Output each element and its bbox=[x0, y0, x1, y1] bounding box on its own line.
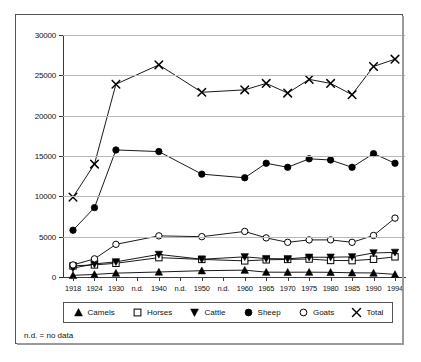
cross-x-icon bbox=[351, 307, 362, 318]
figure-root: 0500010000150002000025000300001918192419… bbox=[0, 0, 421, 362]
y-tick-mark bbox=[59, 277, 63, 278]
x-tick-label: 1965 bbox=[258, 284, 274, 293]
x-tick-mark bbox=[352, 277, 353, 281]
x-tick-mark bbox=[137, 277, 138, 281]
y-tick-mark bbox=[59, 35, 63, 36]
y-tick-label: 10000 bbox=[35, 192, 56, 201]
x-tick-mark bbox=[331, 277, 332, 281]
x-tick-label: n.d. bbox=[132, 284, 144, 293]
gridline-y-20000 bbox=[63, 116, 405, 117]
x-tick-mark bbox=[202, 277, 203, 281]
x-tick-mark bbox=[266, 277, 267, 281]
x-tick-label: 1940 bbox=[151, 284, 167, 293]
x-tick-label: 1980 bbox=[323, 284, 339, 293]
filled-triangle-down-icon bbox=[189, 307, 200, 318]
figure-frame: 0500010000150002000025000300001918192419… bbox=[15, 14, 403, 344]
plot-area: 0500010000150002000025000300001918192419… bbox=[63, 35, 405, 277]
legend-item-total[interactable]: Total bbox=[351, 307, 383, 318]
y-tick-label: 5000 bbox=[39, 232, 56, 241]
x-tick-mark bbox=[223, 277, 224, 281]
x-tick-mark bbox=[395, 277, 396, 281]
x-tick-label: 1994 bbox=[387, 284, 403, 293]
legend-label: Total bbox=[366, 308, 383, 317]
x-axis-line bbox=[63, 277, 406, 278]
x-tick-label: 1975 bbox=[301, 284, 317, 293]
y-tick-label: 15000 bbox=[35, 152, 56, 161]
legend-label: Goats bbox=[313, 308, 334, 317]
filled-circle-icon bbox=[243, 307, 254, 318]
y-tick-mark bbox=[59, 196, 63, 197]
x-tick-mark bbox=[73, 277, 74, 281]
x-tick-mark bbox=[288, 277, 289, 281]
legend-item-goats[interactable]: Goats bbox=[298, 307, 334, 318]
y-tick-label: 0 bbox=[52, 273, 56, 282]
series-total bbox=[69, 55, 399, 201]
legend-item-cattle[interactable]: Cattle bbox=[189, 307, 225, 318]
x-tick-mark bbox=[159, 277, 160, 281]
legend-label: Horses bbox=[147, 308, 172, 317]
gridline-y-30000 bbox=[63, 35, 405, 36]
series-sheep bbox=[70, 147, 398, 234]
y-tick-label: 20000 bbox=[35, 111, 56, 120]
open-square-icon bbox=[132, 307, 143, 318]
legend-label: Sheep bbox=[258, 308, 281, 317]
series-camels bbox=[69, 266, 398, 278]
legend-item-camels[interactable]: Camels bbox=[73, 307, 115, 318]
x-tick-label: 1985 bbox=[344, 284, 360, 293]
x-tick-label: 1990 bbox=[366, 284, 382, 293]
footnote-text: n.d. = no data bbox=[24, 331, 73, 340]
filled-triangle-up-icon bbox=[73, 307, 84, 318]
x-tick-mark bbox=[180, 277, 181, 281]
y-tick-mark bbox=[59, 116, 63, 117]
x-tick-label: 1960 bbox=[237, 284, 253, 293]
x-tick-label: 1930 bbox=[108, 284, 124, 293]
legend-item-sheep[interactable]: Sheep bbox=[243, 307, 281, 318]
gridline-y-25000 bbox=[63, 75, 405, 76]
x-tick-mark bbox=[309, 277, 310, 281]
x-tick-label: 1950 bbox=[194, 284, 210, 293]
x-tick-mark bbox=[245, 277, 246, 281]
legend-label: Camels bbox=[88, 308, 115, 317]
open-circle-icon bbox=[298, 307, 309, 318]
y-tick-mark bbox=[59, 75, 63, 76]
x-tick-label: 1924 bbox=[87, 284, 103, 293]
chart-area: 0500010000150002000025000300001918192419… bbox=[16, 15, 404, 283]
x-tick-label: 1918 bbox=[65, 284, 81, 293]
y-tick-mark bbox=[59, 237, 63, 238]
gridline-y-15000 bbox=[63, 156, 405, 157]
x-tick-label: n.d. bbox=[217, 284, 229, 293]
x-tick-label: n.d. bbox=[174, 284, 186, 293]
y-tick-label: 30000 bbox=[35, 31, 56, 40]
x-tick-mark bbox=[94, 277, 95, 281]
x-tick-mark bbox=[116, 277, 117, 281]
x-tick-label: 1970 bbox=[280, 284, 296, 293]
legend-label: Cattle bbox=[204, 308, 225, 317]
x-tick-mark bbox=[374, 277, 375, 281]
gridline-y-10000 bbox=[63, 196, 405, 197]
legend-item-horses[interactable]: Horses bbox=[132, 307, 172, 318]
chart-legend: CamelsHorsesCattleSheepGoatsTotal bbox=[63, 302, 393, 323]
gridline-y-5000 bbox=[63, 237, 405, 238]
y-tick-mark bbox=[59, 156, 63, 157]
y-tick-label: 25000 bbox=[35, 71, 56, 80]
